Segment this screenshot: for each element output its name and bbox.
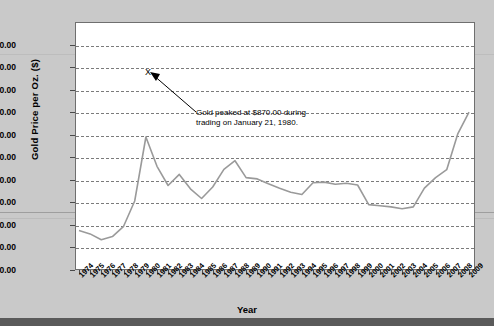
y-tick-label: 900.00	[0, 63, 16, 71]
y-tick-mark	[70, 112, 75, 113]
y-tick-label: 1,000.00	[0, 41, 16, 49]
page-bottom-band	[0, 318, 494, 326]
peak-callout-text: Gold peaked at $870.00 during trading on…	[196, 108, 336, 128]
y-tick-mark	[70, 180, 75, 181]
y-tick-mark	[70, 90, 75, 91]
x-axis-title: Year	[0, 304, 494, 315]
gold-price-series	[79, 112, 469, 240]
callout-line-2: trading on January 21, 1980.	[196, 118, 336, 128]
y-tick-label: 0.00	[0, 266, 16, 274]
y-tick-mark	[70, 247, 75, 248]
callout-line-1: Gold peaked at $870.00 during	[196, 108, 336, 118]
y-tick-label: 200.00	[0, 221, 16, 229]
y-tick-label: 600.00	[0, 131, 16, 139]
y-tick-mark	[70, 270, 75, 271]
y-tick-label: 500.00	[0, 153, 16, 161]
y-tick-label: 700.00	[0, 108, 16, 116]
y-tick-label: 300.00	[0, 198, 16, 206]
y-tick-label: 400.00	[0, 176, 16, 184]
y-tick-label: 100.00	[0, 243, 16, 251]
y-tick-mark	[70, 135, 75, 136]
y-tick-mark	[70, 202, 75, 203]
y-tick-mark	[70, 45, 75, 46]
peak-x-marker: X	[145, 67, 151, 77]
gold-price-line-chart: Gold Price per Oz. ($) X Gold peaked at …	[0, 0, 494, 318]
y-tick-mark	[70, 157, 75, 158]
y-tick-label: 800.00	[0, 86, 16, 94]
y-tick-mark	[70, 225, 75, 226]
callout-arrow	[152, 74, 196, 112]
y-tick-mark	[70, 67, 75, 68]
